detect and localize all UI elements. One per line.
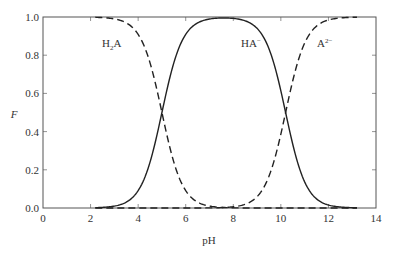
y-tick-label: 0.4 [25,126,39,138]
series-label-ha: HA− [241,37,261,49]
series-label-a2-main: A [317,37,325,49]
series-label-h2a-tail: A [113,37,121,49]
y-tick-label: 0.8 [25,49,39,61]
series-label-a2-sup: 2− [325,37,333,45]
x-tick-label: 4 [135,212,141,224]
x-tick-label: 8 [231,212,237,224]
y-tick-label: 1.0 [25,11,39,23]
x-tick-label: 2 [88,212,94,224]
ticks [43,17,376,208]
x-axis-label: pH [202,234,216,246]
x-tick-label: 12 [323,212,334,224]
series-label-h2a: H2A [102,37,121,52]
y-tick-label: 0.2 [25,164,39,176]
x-tick-label: 0 [40,212,46,224]
y-tick-label: 0.0 [25,202,39,214]
series-label-h2a-main: H [102,37,110,49]
x-tick-label: 6 [183,212,189,224]
series-label-ha-main: HA [241,37,257,49]
plot-frame [43,17,376,208]
x-tick-label: 10 [275,212,287,224]
chart: 024681012140.00.20.40.60.81.0 F pH H2A H… [0,0,393,260]
series-label-a2: A2− [317,37,332,49]
y-tick-label: 0.6 [25,87,39,99]
x-tick-label: 14 [371,212,383,224]
series-label-ha-sup: − [257,37,261,45]
y-axis-label: F [10,108,18,120]
